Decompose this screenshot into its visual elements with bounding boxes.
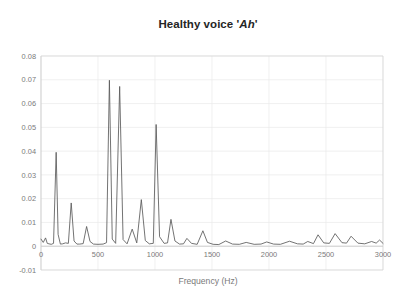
y-tick-label: 0.03 [22,171,36,180]
y-axis-tick-labels: -0.0100.010.020.030.040.050.060.070.08 [19,52,36,275]
x-axis-tick-labels: 050010001500200025003000 [39,250,391,259]
y-tick-label: 0.02 [22,194,36,203]
x-tick-label: 0 [39,250,43,259]
x-tick-label: 3000 [375,250,391,259]
x-tick-label: 1000 [147,250,163,259]
y-tick-label: 0.01 [22,218,36,227]
y-tick-label: 0.07 [22,75,36,84]
chart-plot-area: -0.0100.010.020.030.040.050.060.070.08 0… [0,0,416,304]
y-tick-label: 0.06 [22,99,36,108]
y-tick-label: 0.08 [22,52,36,61]
x-tick-label: 2000 [261,250,277,259]
y-tick-label: 0.05 [22,123,36,132]
figure-canvas: Healthy voice 'Ah' -0.0100.010.020.030.0… [0,0,416,304]
gridlines [41,56,383,270]
x-axis-title: Frequency (Hz) [178,276,237,286]
y-tick-label: -0.01 [19,266,36,275]
y-tick-label: 0.04 [22,147,36,156]
y-tick-label: 0 [32,242,36,251]
x-tick-label: 2500 [318,250,334,259]
x-tick-label: 500 [92,250,104,259]
x-tick-label: 1500 [204,250,220,259]
